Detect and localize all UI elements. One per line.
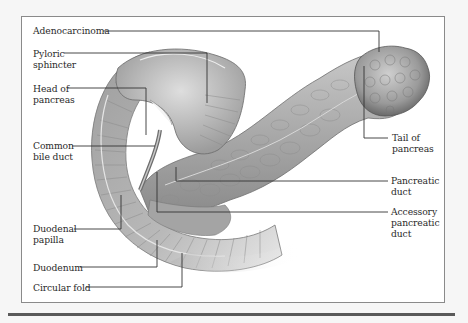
label-tail-of-pancreas: Tail of pancreas xyxy=(392,132,434,154)
label-common-bile-duct: Common bile duct xyxy=(33,140,74,162)
label-pancreatic-duct: Pancreatic duct xyxy=(391,175,439,197)
label-accessory-pancreatic-duct: Accessory pancreatic duct xyxy=(391,206,440,239)
label-pyloric-sphincter: Pyloric sphincter xyxy=(33,48,76,70)
label-adenocarcinoma: Adenocarcinoma xyxy=(33,25,110,36)
label-duodenal-papilla: Duodenal papilla xyxy=(33,223,77,245)
tumor-shape xyxy=(355,46,430,116)
label-circular-fold: Circular fold xyxy=(33,282,91,293)
label-head-of-pancreas: Head of pancreas xyxy=(33,83,75,105)
label-duodenum: Duodenum xyxy=(33,262,83,273)
